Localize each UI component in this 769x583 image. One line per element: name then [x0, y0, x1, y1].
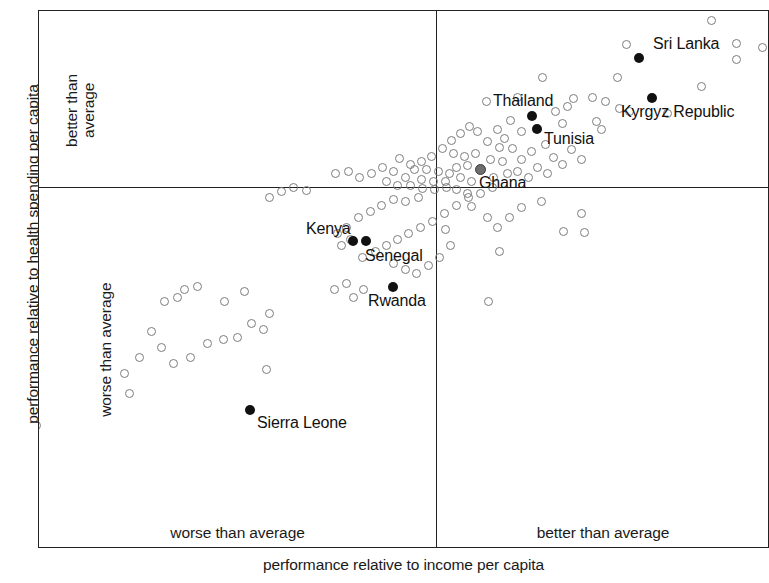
data-point: [577, 155, 586, 164]
data-point: [393, 181, 402, 190]
x-axis-title: performance relative to income per capit…: [38, 556, 769, 574]
country-label: Rwanda: [368, 293, 426, 309]
data-point: [366, 207, 375, 216]
data-point: [430, 185, 439, 194]
data-point: [401, 173, 410, 182]
data-point: [446, 241, 455, 250]
data-point: [331, 169, 340, 178]
highlighted-data-point: [532, 124, 542, 134]
data-point: [406, 181, 415, 190]
data-point: [354, 213, 363, 222]
data-point: [732, 55, 741, 64]
data-point: [186, 353, 195, 362]
data-point: [410, 165, 419, 174]
data-point: [482, 97, 491, 106]
data-point: [588, 93, 597, 102]
data-point: [580, 228, 589, 237]
highlighted-data-point: [245, 405, 255, 415]
data-point: [247, 319, 256, 328]
data-point: [277, 187, 286, 196]
data-point: [422, 165, 431, 174]
data-point: [359, 285, 368, 294]
highlighted-data-point: [475, 164, 486, 175]
data-point: [418, 184, 427, 193]
data-point: [367, 169, 376, 178]
data-point: [471, 149, 480, 158]
country-label: Ghana: [479, 175, 526, 191]
data-point: [495, 247, 504, 256]
quadrant-label-y-lower: worse than average: [97, 250, 114, 450]
data-point: [233, 333, 242, 342]
data-point: [265, 193, 274, 202]
data-point: [377, 201, 386, 210]
data-point: [342, 279, 351, 288]
data-point: [533, 163, 542, 172]
data-point: [440, 209, 449, 218]
data-point: [262, 365, 271, 374]
data-point: [498, 157, 507, 166]
scatter-plot-figure: performance relative to health spending …: [0, 0, 769, 583]
horizontal-average-divider: [39, 187, 768, 188]
data-point: [220, 297, 229, 306]
data-point: [169, 359, 178, 368]
country-label: Senegal: [365, 248, 423, 264]
data-point: [538, 73, 547, 82]
data-point: [349, 293, 358, 302]
data-point: [389, 167, 398, 176]
data-point: [577, 209, 586, 218]
data-point: [558, 119, 567, 128]
data-point: [412, 269, 421, 278]
quadrant-label-y-upper: better than average: [63, 30, 98, 190]
data-point: [344, 167, 353, 176]
data-point: [424, 261, 433, 270]
data-point: [160, 297, 169, 306]
data-point: [302, 186, 311, 195]
quadrant-label-x-left: worse than average: [39, 524, 436, 542]
data-point: [452, 201, 461, 210]
data-point: [414, 193, 423, 202]
data-point: [613, 73, 622, 82]
data-point: [484, 297, 493, 306]
highlighted-data-point: [527, 111, 537, 121]
data-point: [537, 197, 546, 206]
highlighted-data-point: [361, 236, 371, 246]
data-point: [527, 147, 536, 156]
data-point: [355, 173, 364, 182]
data-point: [517, 155, 526, 164]
data-point: [732, 39, 741, 48]
data-point: [193, 282, 202, 291]
country-label: Kenya: [306, 221, 351, 237]
data-point: [456, 129, 465, 138]
data-point: [173, 293, 182, 302]
data-point: [427, 152, 436, 161]
data-point: [447, 136, 456, 145]
data-point: [463, 189, 472, 198]
data-point: [493, 223, 502, 232]
data-point: [38, 421, 41, 430]
data-point: [597, 125, 606, 134]
quadrant-label-y-upper-line1: better than: [63, 74, 80, 147]
data-point: [517, 203, 526, 212]
data-point: [435, 253, 444, 262]
country-label: Sierra Leone: [257, 415, 347, 431]
data-point: [517, 127, 526, 136]
data-point: [758, 43, 767, 52]
country-label: Kyrgyz Republic: [621, 104, 734, 120]
data-point: [467, 177, 476, 186]
data-point: [438, 144, 447, 153]
data-point: [125, 389, 134, 398]
data-point: [416, 223, 425, 232]
data-point: [563, 102, 572, 111]
data-point: [465, 122, 474, 131]
data-point: [442, 183, 451, 192]
data-point: [180, 285, 189, 294]
data-point: [456, 173, 465, 182]
data-point: [203, 339, 212, 348]
data-point: [506, 116, 515, 125]
data-point: [505, 213, 514, 222]
data-point: [382, 177, 391, 186]
quadrant-label-x-right: better than average: [436, 524, 769, 542]
data-point: [558, 160, 567, 169]
data-point: [330, 285, 339, 294]
data-point: [592, 117, 601, 126]
